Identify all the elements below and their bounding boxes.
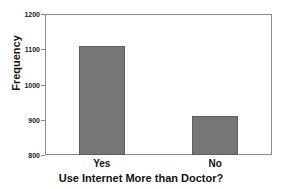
x-tick-label: No	[209, 158, 222, 169]
bar	[79, 46, 125, 155]
x-axis-title: Use Internet More than Doctor?	[0, 172, 282, 184]
y-tick-mark	[41, 155, 45, 156]
y-axis-title: Frequency	[10, 3, 22, 123]
x-tick-label: Yes	[93, 158, 110, 169]
y-tick-label: 900	[8, 116, 40, 123]
bars-layer	[45, 14, 272, 155]
bar-chart: Frequency 800900100011001200 YesNo Use I…	[0, 0, 282, 189]
bar	[192, 116, 238, 155]
y-tick-label: 1200	[8, 11, 40, 18]
y-tick-label: 1000	[8, 81, 40, 88]
y-tick-label: 800	[8, 152, 40, 159]
y-tick-label: 1100	[8, 46, 40, 53]
